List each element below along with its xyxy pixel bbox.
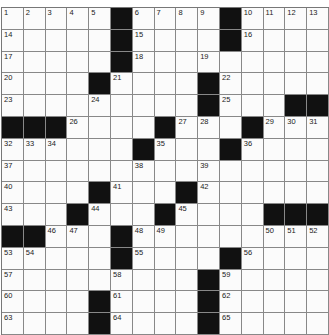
grid-cell[interactable]: 11 (264, 8, 286, 30)
grid-cell[interactable] (242, 52, 264, 74)
grid-cell[interactable] (155, 73, 177, 95)
grid-cell[interactable]: 42 (198, 182, 220, 204)
grid-cell[interactable]: 36 (242, 139, 264, 161)
grid-cell[interactable]: 65 (220, 313, 242, 335)
grid-cell[interactable]: 1 (2, 8, 24, 30)
grid-cell[interactable]: 15 (133, 30, 155, 52)
grid-cell[interactable] (67, 248, 89, 270)
grid-cell[interactable]: 27 (176, 117, 198, 139)
grid-cell[interactable] (264, 161, 286, 183)
grid-cell[interactable]: 21 (111, 73, 133, 95)
grid-cell[interactable] (198, 139, 220, 161)
grid-cell[interactable]: 41 (111, 182, 133, 204)
grid-cell[interactable] (198, 226, 220, 248)
grid-cell[interactable]: 40 (2, 182, 24, 204)
grid-cell[interactable]: 39 (198, 161, 220, 183)
grid-cell[interactable] (264, 248, 286, 270)
grid-cell[interactable]: 49 (155, 226, 177, 248)
grid-cell[interactable] (67, 313, 89, 335)
grid-cell[interactable] (285, 291, 307, 313)
grid-cell[interactable] (133, 313, 155, 335)
grid-cell[interactable] (46, 182, 68, 204)
grid-cell[interactable]: 64 (111, 313, 133, 335)
grid-cell[interactable] (176, 161, 198, 183)
grid-cell[interactable]: 50 (264, 226, 286, 248)
grid-cell[interactable] (46, 95, 68, 117)
grid-cell[interactable] (264, 73, 286, 95)
grid-cell[interactable] (176, 73, 198, 95)
grid-cell[interactable]: 17 (2, 52, 24, 74)
grid-cell[interactable]: 22 (220, 73, 242, 95)
grid-cell[interactable]: 54 (24, 248, 46, 270)
grid-cell[interactable]: 57 (2, 270, 24, 292)
grid-cell[interactable]: 60 (2, 291, 24, 313)
grid-cell[interactable]: 46 (46, 226, 68, 248)
grid-cell[interactable]: 59 (220, 270, 242, 292)
grid-cell[interactable] (285, 313, 307, 335)
grid-cell[interactable] (67, 30, 89, 52)
grid-cell[interactable] (176, 52, 198, 74)
grid-cell[interactable] (133, 182, 155, 204)
grid-cell[interactable] (307, 313, 329, 335)
grid-cell[interactable]: 14 (2, 30, 24, 52)
grid-cell[interactable]: 8 (176, 8, 198, 30)
grid-cell[interactable]: 7 (155, 8, 177, 30)
grid-cell[interactable] (133, 95, 155, 117)
grid-cell[interactable]: 56 (242, 248, 264, 270)
grid-cell[interactable] (24, 182, 46, 204)
grid-cell[interactable] (242, 73, 264, 95)
grid-cell[interactable] (46, 270, 68, 292)
grid-cell[interactable] (198, 30, 220, 52)
grid-cell[interactable] (264, 182, 286, 204)
grid-cell[interactable] (46, 161, 68, 183)
grid-cell[interactable] (242, 291, 264, 313)
grid-cell[interactable]: 61 (111, 291, 133, 313)
grid-cell[interactable]: 26 (67, 117, 89, 139)
grid-cell[interactable] (24, 270, 46, 292)
grid-cell[interactable]: 53 (2, 248, 24, 270)
grid-cell[interactable]: 19 (198, 52, 220, 74)
grid-cell[interactable] (198, 204, 220, 226)
grid-cell[interactable] (24, 161, 46, 183)
grid-cell[interactable] (111, 139, 133, 161)
grid-cell[interactable] (155, 248, 177, 270)
grid-cell[interactable] (242, 204, 264, 226)
grid-cell[interactable] (133, 73, 155, 95)
grid-cell[interactable] (220, 161, 242, 183)
grid-cell[interactable] (285, 73, 307, 95)
grid-cell[interactable] (46, 73, 68, 95)
grid-cell[interactable]: 34 (46, 139, 68, 161)
grid-cell[interactable]: 58 (111, 270, 133, 292)
grid-cell[interactable]: 51 (285, 226, 307, 248)
grid-cell[interactable] (285, 248, 307, 270)
grid-cell[interactable]: 13 (307, 8, 329, 30)
grid-cell[interactable]: 52 (307, 226, 329, 248)
grid-cell[interactable] (155, 313, 177, 335)
grid-cell[interactable] (176, 313, 198, 335)
grid-cell[interactable]: 25 (220, 95, 242, 117)
grid-cell[interactable] (155, 291, 177, 313)
grid-cell[interactable] (176, 30, 198, 52)
grid-cell[interactable] (46, 248, 68, 270)
grid-cell[interactable] (242, 161, 264, 183)
grid-cell[interactable] (89, 117, 111, 139)
grid-cell[interactable] (111, 95, 133, 117)
grid-cell[interactable] (220, 226, 242, 248)
grid-cell[interactable] (307, 52, 329, 74)
grid-cell[interactable] (89, 248, 111, 270)
grid-cell[interactable]: 2 (24, 8, 46, 30)
grid-cell[interactable] (24, 313, 46, 335)
grid-cell[interactable] (155, 52, 177, 74)
grid-cell[interactable]: 12 (285, 8, 307, 30)
grid-cell[interactable] (46, 313, 68, 335)
grid-cell[interactable] (307, 182, 329, 204)
grid-cell[interactable]: 3 (46, 8, 68, 30)
grid-cell[interactable] (24, 73, 46, 95)
grid-cell[interactable] (220, 52, 242, 74)
grid-cell[interactable] (242, 182, 264, 204)
grid-cell[interactable] (89, 226, 111, 248)
grid-cell[interactable]: 16 (242, 30, 264, 52)
grid-cell[interactable] (67, 291, 89, 313)
grid-cell[interactable]: 9 (198, 8, 220, 30)
grid-cell[interactable] (285, 182, 307, 204)
